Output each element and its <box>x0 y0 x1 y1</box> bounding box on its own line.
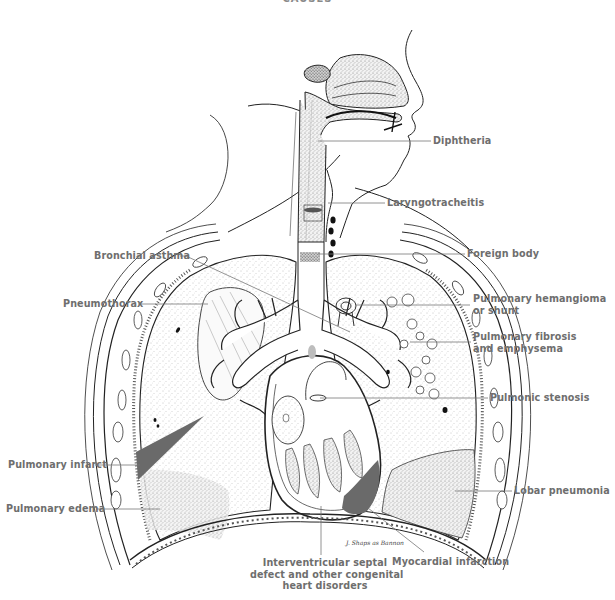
head-back-contour <box>166 115 228 232</box>
label-pulmonary-hemangioma: Pulmonary hemangioma or shunt <box>473 293 606 316</box>
label-lobar-pneumonia: Lobar pneumonia <box>514 485 610 497</box>
label-interventricular-line1: Interventricular septal <box>250 557 400 569</box>
label-laryngotracheitis: Laryngotracheitis <box>387 197 484 209</box>
artist-signature: J. Shaps as Bannon <box>344 539 404 547</box>
label-pulmonic-stenosis: Pulmonic stenosis <box>490 392 590 404</box>
label-pulmonary-infarct: Pulmonary infarct <box>8 459 107 471</box>
anatomical-diagram: CAUSES <box>0 0 615 600</box>
label-interventricular-line3: heart disorders <box>250 580 400 592</box>
label-foreign-body: Foreign body <box>467 248 539 260</box>
label-pulmonary-fibrosis-line2: and emphysema <box>473 343 577 355</box>
label-diphtheria: Diphtheria <box>433 135 491 147</box>
label-pulmonary-hemangioma-line1: Pulmonary hemangioma <box>473 293 606 305</box>
label-pulmonary-fibrosis: Pulmonary fibrosis and emphysema <box>473 331 577 354</box>
label-pulmonary-hemangioma-line2: or shunt <box>473 305 606 317</box>
label-pulmonary-fibrosis-line1: Pulmonary fibrosis <box>473 331 577 343</box>
label-interventricular-septal-defect: Interventricular septal defect and other… <box>250 557 400 592</box>
label-bronchial-asthma: Bronchial asthma <box>94 250 190 262</box>
label-pneumothorax: Pneumothorax <box>63 298 143 310</box>
label-myocardial-infarction: Myocardial infarction <box>392 556 509 568</box>
label-interventricular-line2: defect and other congenital <box>250 569 400 581</box>
label-pulmonary-edema: Pulmonary edema <box>6 503 105 515</box>
